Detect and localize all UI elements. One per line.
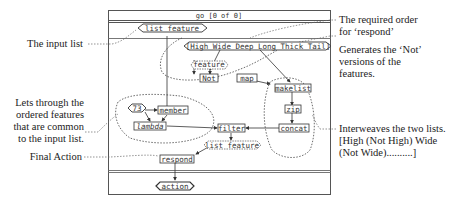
annotation-input-list: The input list xyxy=(27,38,83,50)
svg-text:concat: concat xyxy=(280,124,307,133)
node-zip[interactable]: zip xyxy=(285,105,301,114)
svg-text:makelist: makelist xyxy=(275,84,311,93)
node-constant-73[interactable]: 73 xyxy=(128,104,146,113)
svg-text:filter: filter xyxy=(218,124,246,133)
svg-text:Not: Not xyxy=(202,74,216,83)
annotation-required-order: The required order for ‘respond’ xyxy=(339,14,418,38)
node-feature[interactable]: feature xyxy=(191,60,228,69)
svg-text:list feature: list feature xyxy=(145,24,200,33)
node-order-list[interactable]: [High Wide Deep Long Thick Tail] xyxy=(184,42,331,51)
node-makelist[interactable]: makelist xyxy=(275,84,311,93)
svg-text:lambda: lambda xyxy=(136,122,163,131)
svg-text:respond: respond xyxy=(161,155,193,164)
node-filter[interactable]: filter xyxy=(218,124,246,133)
node-output-list[interactable]: list feature xyxy=(204,141,261,150)
lasso-filter-common xyxy=(116,94,214,143)
svg-text:zip: zip xyxy=(286,105,300,114)
annotation-generates-not: Generates the ‘Not’ versions of the feat… xyxy=(339,44,422,80)
svg-text:map: map xyxy=(240,74,254,83)
annotation-final-action: Final Action xyxy=(0,151,82,163)
node-action[interactable]: action xyxy=(156,182,194,191)
svg-text:list feature: list feature xyxy=(205,141,260,150)
svg-text:member: member xyxy=(159,106,187,115)
svg-text:[High Wide Deep Long Thick Tai: [High Wide Deep Long Thick Tail] xyxy=(186,42,331,51)
annotation-lets-through: Lets through the ordered features that a… xyxy=(0,97,84,145)
svg-text:action: action xyxy=(161,182,188,191)
node-member[interactable]: member xyxy=(158,106,188,115)
node-lambda[interactable]: lambda xyxy=(134,122,166,131)
node-respond[interactable]: respond xyxy=(160,155,194,164)
method-frame: go [0 of 0] xyxy=(109,11,331,195)
svg-text:feature: feature xyxy=(193,60,225,69)
node-input-list[interactable]: list feature xyxy=(138,24,207,33)
svg-text:73: 73 xyxy=(132,104,141,113)
node-not[interactable]: Not xyxy=(200,74,218,83)
annotation-interweaves: Interweaves the two lists. [High (Not Hi… xyxy=(339,123,446,159)
node-concat[interactable]: concat xyxy=(279,124,309,133)
frame-title: go [0 of 0] xyxy=(196,12,242,20)
node-map[interactable]: map xyxy=(237,74,257,83)
